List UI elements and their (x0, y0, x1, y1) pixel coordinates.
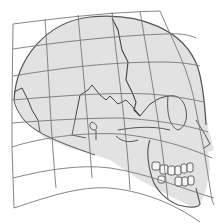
figure-canvas (0, 0, 222, 224)
skull-grid-illustration (0, 0, 222, 224)
